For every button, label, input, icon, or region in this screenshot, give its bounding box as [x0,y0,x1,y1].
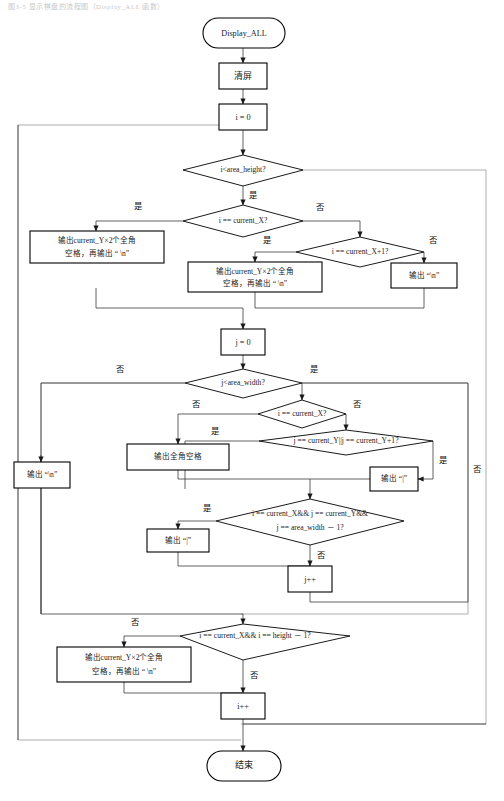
edge-label-i-height-yes: 是 [249,191,258,200]
node-cond-i-height-label: i<area_height? [220,165,266,174]
node-clear-screen-label: 清屏 [234,70,252,81]
node-cond-j-eq-cy-label: j == current_Y||j == current_Y+1? [293,436,400,445]
node-out-row-mid-line1: 输出current_Y×2个全角 [216,266,295,276]
edge-label-j-width-yes: 是 [310,365,319,374]
edge-label-outer-no: 否 [473,465,482,474]
node-out-row-bottom-line1: 输出current_Y×2个全角 [85,652,164,662]
node-out-row-left-line2: 空格，再输出 “ \n” [65,248,129,258]
edge-label-i-eq-cx-no: 否 [316,203,325,212]
node-j-inc: j++ [288,566,332,592]
node-out-newline-right-label: 输出 “\n” [409,270,440,280]
node-cond-i-eq-cx1-label: i == current_X+1? [332,247,389,256]
node-out-row-bottom: 输出current_Y×2个全角 空格，再输出 “ \n” [57,647,191,682]
node-out-row-bottom-line2: 空格，再输出 “ \n” [92,666,156,676]
node-out-row-left-line1: 输出current_Y×2个全角 [58,235,137,245]
node-i-init: i = 0 [219,104,267,130]
node-cond-i-height-last: i == current_X&& i == height － 1? [180,624,350,660]
edge-label-i-eq-cx1-yes: 是 [263,236,272,245]
node-start-label: Display_ALL [221,29,266,38]
node-cond-i-height: i<area_height? [183,155,303,186]
node-out-row-mid-line2: 空格，再输出 “ \n” [223,278,287,288]
node-cond-combo-line2: j == area_width － 1? [275,523,344,532]
node-cond-combo-line1: i == current_X&& j == current_Y&& [252,509,368,518]
node-cond-i-eq-cx: i == current_X? [183,205,303,237]
edge-label-i-eq-cx2-yes: 否 [353,400,362,409]
node-j-init-label: j = 0 [234,338,250,347]
node-cond-i-eq-cx-label: i == current_X? [219,216,268,225]
node-cond-j-width: j<area_width? [185,369,302,398]
node-out-newline-left-label: 输出 “\n” [27,469,58,479]
node-cond-i-height-last-label: i == current_X&& i == height － 1? [199,631,311,640]
edge-label-last-no: 否 [250,671,259,680]
node-out-fullwidth-space: 输出全角空格 [127,444,229,470]
edge-label-i-eq-cx-yes: 是 [134,202,143,211]
edge-label-j-eq-cy-yes: 是 [439,456,448,465]
node-out-row-mid: 输出current_Y×2个全角 空格，再输出 “ \n” [188,262,322,292]
edge-label-j-width-no: 否 [116,365,125,374]
node-start: Display_ALL [203,18,285,48]
edge-label-combo-yes: 是 [203,504,212,513]
edge-label-j-eq-cy-no: 是 [211,427,220,436]
edge-label-i-eq-cx1-no: 否 [429,236,438,245]
node-out-newline-left: 输出 “\n” [14,462,70,488]
node-i-inc: i++ [221,693,265,719]
edge-label-last-yes: 否 [131,618,140,627]
node-out-row-left: 输出current_Y×2个全角 空格，再输出 “ \n” [30,231,164,263]
node-cond-i-eq-cx2-label: i == current_X? [278,409,327,418]
node-cond-i-eq-cx2: i == current_X? [258,400,346,428]
edge-label-combo-no: 否 [317,551,326,560]
flowchart-canvas: Display_ALL 清屏 i = 0 i<area_height? i ==… [0,0,504,801]
node-out-bar-right: 输出 “|” [370,467,418,491]
node-out-bar-left: 输出 “|” [147,529,209,552]
node-out-bar-left-label: 输出 “|” [165,535,191,545]
node-cond-j-width-label: j<area_width? [220,378,265,387]
node-end-label: 结束 [235,759,253,770]
edge-label-i-eq-cx2-no: 否 [192,400,201,409]
node-j-inc-label: j++ [303,575,316,584]
node-clear-screen: 清屏 [219,63,267,89]
node-j-init: j = 0 [221,329,265,355]
node-i-init-label: i = 0 [235,113,250,122]
node-cond-combo: i == current_X&& j == current_Y&& j == a… [216,499,404,545]
node-end: 结束 [207,751,281,781]
node-out-bar-right-label: 输出 “|” [381,473,407,483]
node-out-fullwidth-space-label: 输出全角空格 [154,451,202,461]
flowchart-page: 图3-5 显示棋盘的流程图（Display_ALL 函数） [0,0,504,801]
node-cond-j-eq-cy: j == current_Y||j == current_Y+1? [259,430,433,455]
node-i-inc-label: i++ [237,702,249,711]
node-out-newline-right: 输出 “\n” [391,263,457,288]
